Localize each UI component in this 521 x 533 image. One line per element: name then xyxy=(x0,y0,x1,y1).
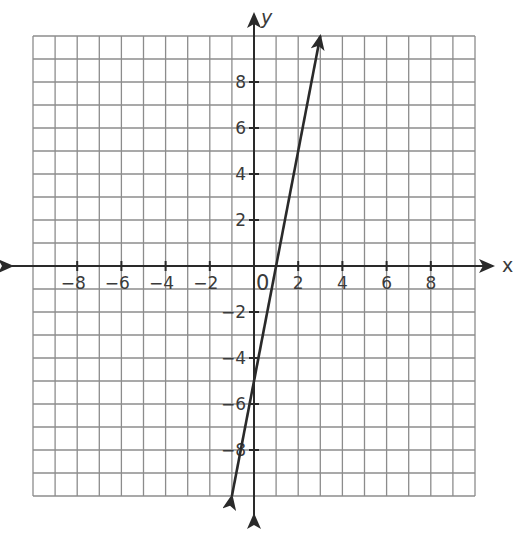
y-tick-label: 2 xyxy=(235,210,246,230)
x-tick-label: 2 xyxy=(293,273,304,293)
y-tick-label: −6 xyxy=(221,394,246,414)
x-tick-label: −2 xyxy=(193,273,218,293)
x-tick-label: −6 xyxy=(105,273,130,293)
y-tick-label: −2 xyxy=(221,302,246,322)
y-tick-label: −4 xyxy=(221,348,246,368)
axes xyxy=(12,14,493,515)
x-axis-label: x xyxy=(502,254,513,276)
y-tick-label: 4 xyxy=(235,164,246,184)
y-tick-label: 8 xyxy=(235,72,246,92)
tick-labels: −8−6−4−224688642−2−4−6−80xy xyxy=(61,6,514,460)
y-axis-label: y xyxy=(260,6,273,28)
x-tick-label: −4 xyxy=(149,273,174,293)
x-tick-label: 6 xyxy=(381,273,392,293)
coordinate-plane: −8−6−4−224688642−2−4−6−80xy xyxy=(0,0,521,533)
x-tick-label: −8 xyxy=(61,273,86,293)
x-tick-label: 4 xyxy=(337,273,348,293)
origin-label: 0 xyxy=(256,271,269,295)
y-tick-label: 6 xyxy=(235,118,246,138)
x-tick-label: 8 xyxy=(425,273,436,293)
